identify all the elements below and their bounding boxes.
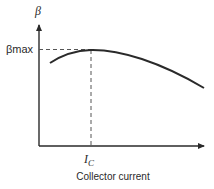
beta-vs-collector-current-diagram: β βmax IC Collector current [0, 0, 214, 189]
x-axis-label: Collector current [76, 171, 150, 182]
beta-max-label: βmax [6, 43, 34, 55]
ic-label: IC [83, 152, 95, 168]
beta-curve [50, 50, 204, 88]
y-axis-label: β [34, 4, 41, 18]
